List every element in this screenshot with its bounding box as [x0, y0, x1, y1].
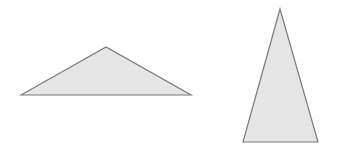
tall-isosceles-triangle — [243, 9, 318, 142]
obtuse-triangle — [21, 47, 191, 95]
diagram-canvas — [0, 0, 337, 149]
